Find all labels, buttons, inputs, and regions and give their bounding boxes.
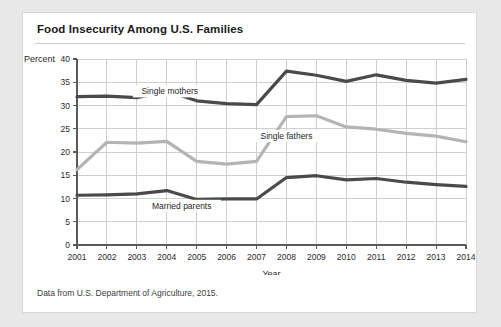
y-tick-label: 0 [65,240,70,250]
x-tick-label: 2009 [307,252,326,262]
x-axis-title: Year [262,269,280,275]
x-tick-label: 2005 [187,252,206,262]
series-label-single-fathers: Single fathers [260,131,312,141]
series-line-married-parents [77,176,466,200]
y-tick-label: 20 [61,147,71,157]
chart-card: Food Insecurity Among U.S. Families 0510… [22,12,477,313]
x-tick-label: 2011 [367,252,386,262]
x-tick-label: 2003 [127,252,146,262]
x-tick-label: 2004 [157,252,176,262]
y-tick-label: 5 [65,217,70,227]
x-tick-label: 2012 [397,252,416,262]
y-tick-label: 35 [61,77,71,87]
x-tick-label: 2001 [68,252,87,262]
x-tick-label: 2006 [217,252,236,262]
series-label-married-parents: Married parents [152,201,212,211]
x-tick-label: 2013 [427,252,446,262]
series-label-single-mothers: Single mothers [141,86,198,96]
y-tick-label: 25 [61,124,71,134]
y-tick-label: 40 [61,54,71,64]
x-tick-label: 2010 [337,252,356,262]
x-tick-label: 2008 [277,252,296,262]
x-tick-label: 2007 [247,252,266,262]
series-line-single-fathers [77,116,466,170]
x-tick-label: 2014 [457,252,476,262]
line-chart: 0510152025303540Percent20012002200320042… [23,43,478,275]
y-axis-title: Percent [24,54,56,64]
source-note: Data from U.S. Department of Agriculture… [37,288,218,298]
x-tick-label: 2002 [97,252,116,262]
page-title: Food Insecurity Among U.S. Families [37,23,243,35]
y-tick-label: 15 [61,170,71,180]
chart-plot-area: 0510152025303540Percent20012002200320042… [23,43,478,275]
y-tick-label: 30 [61,101,71,111]
y-tick-label: 10 [61,194,71,204]
